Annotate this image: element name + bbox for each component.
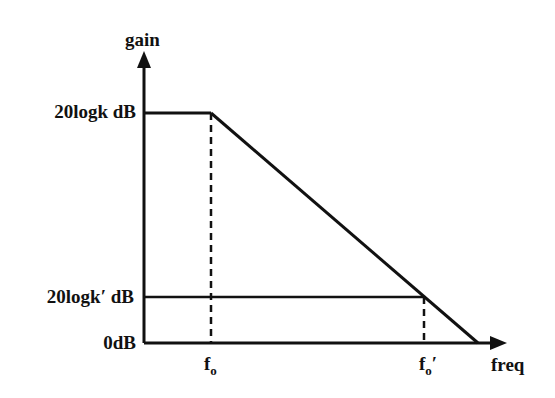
y-axis-arrow-icon [137, 51, 151, 68]
diagram-lines [0, 0, 555, 398]
fo-prime-label: fo′ [419, 354, 437, 377]
bode-diagram: gain 20logk dB 20logk′ dB 0dB fo fo′ fre… [0, 0, 555, 398]
level-20logk-prime-label: 20logk′ dB [47, 287, 134, 306]
level-0db-label: 0dB [103, 333, 136, 352]
y-axis-label: gain [125, 30, 160, 49]
rolloff-line [211, 113, 478, 343]
level-20logk-label: 20logk dB [54, 102, 136, 121]
x-axis-arrow-icon [490, 336, 507, 350]
x-axis-label: freq [491, 355, 524, 374]
fo-label: fo [204, 354, 217, 377]
